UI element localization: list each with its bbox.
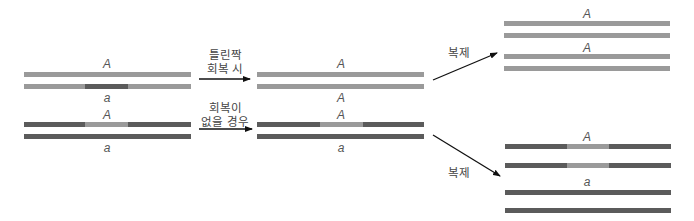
arrow-down-right-icon — [433, 135, 500, 176]
mismatch-repair-diagram: A a A a 틀린짝 회복 시 회복이 없을 경우 A A A a 복제 복제… — [0, 0, 694, 221]
arrows-layer — [0, 0, 694, 221]
arrow-up-right-icon — [433, 53, 497, 80]
